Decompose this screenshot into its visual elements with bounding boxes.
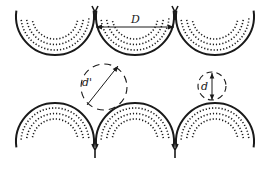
- arrowhead-up-icon: [210, 73, 215, 79]
- fiber-cross-section: [16, 103, 94, 147]
- fiber-contact-junction: [92, 144, 98, 158]
- fiber-cross-section: [176, 103, 254, 147]
- fiber-outer-wall: [96, 103, 174, 147]
- dotted-ring: [193, 21, 238, 39]
- dotted-ring: [187, 20, 243, 45]
- dotted-ring: [21, 108, 89, 140]
- vertical-gap-circle: d: [198, 72, 226, 100]
- dotted-ring: [33, 119, 78, 137]
- diagram-canvas: D d' d: [0, 0, 266, 169]
- dotted-ring: [113, 119, 158, 137]
- fiber-cross-section: [176, 11, 254, 55]
- label-d-prime: d': [82, 76, 92, 89]
- fiber-contact-junction: [172, 144, 178, 158]
- fiber-outer-wall: [176, 11, 254, 55]
- fiber-cross-section: [16, 11, 94, 55]
- label-D: D: [130, 13, 140, 26]
- center-distance-dimension: D: [96, 13, 174, 30]
- dotted-ring: [187, 114, 243, 139]
- dotted-ring: [27, 20, 83, 45]
- bottom-row-fibers: [16, 103, 254, 147]
- dotted-ring: [27, 114, 83, 139]
- dotted-ring: [193, 119, 238, 137]
- fiber-outer-wall: [16, 11, 94, 55]
- dotted-ring: [181, 108, 249, 140]
- fiber-cross-section: [96, 103, 174, 147]
- label-d: d: [201, 80, 208, 93]
- fiber-spacing-diagram: D d' d: [0, 0, 266, 169]
- diagonal-gap-circle: d': [81, 64, 127, 110]
- dotted-ring: [107, 114, 163, 139]
- dotted-ring: [33, 21, 78, 39]
- arrowhead-down-icon: [210, 95, 215, 101]
- dotted-ring: [181, 18, 249, 50]
- fiber-outer-wall: [176, 103, 254, 147]
- dotted-ring: [101, 108, 169, 140]
- fiber-outer-wall: [16, 103, 94, 147]
- dotted-ring: [21, 18, 89, 50]
